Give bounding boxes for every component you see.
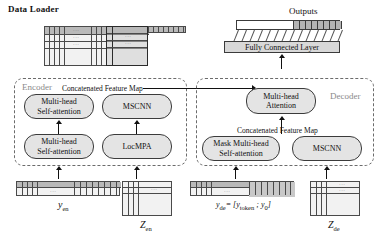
data-loader-dots-1: ··· bbox=[73, 28, 80, 33]
arrow-zen-to-encoder bbox=[136, 170, 137, 179]
input-z-de-block: ··· ··· bbox=[310, 181, 360, 216]
module-dec-bottom-left-line1: Mask Multi-head bbox=[213, 139, 268, 149]
input-z-de-subscript: de bbox=[334, 225, 340, 232]
selection-header bbox=[107, 27, 147, 34]
module-dec-bottom-left-line2: Self-attention bbox=[213, 149, 268, 159]
arrow-dec-to-fc-head bbox=[279, 54, 285, 58]
input-y-de-eq-mid: ; y bbox=[254, 200, 264, 209]
input-z-en-subscript: en bbox=[146, 225, 152, 232]
arrow-enc-right-internal bbox=[136, 124, 137, 134]
data-loader-selection: ··· ··· bbox=[106, 26, 148, 66]
input-y-de-eq-sub1: token bbox=[240, 204, 254, 211]
fully-connected-layer: Fully Connected Layer bbox=[224, 41, 340, 53]
arrow-enc-right-internal-head bbox=[134, 120, 140, 124]
module-dec-bottom-right-line1: MSCNN bbox=[313, 144, 341, 154]
input-y-en-bar: ··· bbox=[16, 181, 120, 196]
encoder-concat-feature-map-label: Concatenated Feature Map bbox=[62, 84, 143, 93]
input-z-en-block: ··· bbox=[122, 181, 172, 216]
module-dec-bottom-right[interactable]: MSCNN bbox=[292, 136, 362, 161]
outputs-label: Outputs bbox=[289, 6, 318, 16]
y-en-dots: ··· bbox=[50, 189, 57, 194]
module-enc-bottom-left[interactable]: Multi-head Self-attention bbox=[24, 134, 94, 159]
selection-dots-1: ··· bbox=[125, 34, 132, 39]
module-enc-top-right-line1: MSCNN bbox=[123, 102, 151, 112]
z-en-dots-1: ··· bbox=[151, 187, 158, 192]
module-enc-top-left-line1: Multi-head bbox=[37, 97, 81, 107]
encoder-label: Encoder bbox=[22, 82, 52, 92]
arrow-yen-to-encoder bbox=[58, 170, 59, 179]
arrow-dec-to-fc bbox=[281, 58, 282, 69]
module-enc-top-left-line2: Self-attention bbox=[37, 107, 81, 117]
data-loader-table: ··· ··· ··· ··· ··· bbox=[44, 26, 186, 66]
arrow-dec-concat-to-attention-head bbox=[279, 116, 285, 120]
input-y-en-subscript: en bbox=[62, 205, 68, 212]
input-z-de-label: Zde bbox=[328, 219, 340, 232]
arrow-zde-to-decoder bbox=[326, 170, 327, 179]
module-enc-bottom-left-line2: Self-attention bbox=[37, 147, 81, 157]
module-dec-top[interactable]: Multi-head Attention bbox=[246, 88, 316, 114]
arrow-zen-to-encoder-head bbox=[134, 166, 140, 170]
input-y-de-label: yde= [ytoken ; y0] bbox=[216, 200, 271, 211]
data-loader-dots-3: ··· bbox=[73, 42, 80, 47]
arrow-enc-left-internal bbox=[58, 124, 59, 134]
arrow-yde-to-decoder-head bbox=[233, 166, 239, 170]
module-dec-top-line1: Multi-head bbox=[263, 92, 299, 102]
input-z-en-label: Zen bbox=[140, 219, 152, 232]
module-dec-bottom-left[interactable]: Mask Multi-head Self-attention bbox=[202, 136, 280, 161]
z-de-dots-1: ··· bbox=[339, 182, 346, 187]
module-enc-top-left[interactable]: Multi-head Self-attention bbox=[24, 94, 94, 119]
input-y-de-bar: ··· bbox=[190, 181, 294, 196]
selection-dots-2: ··· bbox=[125, 41, 132, 46]
data-loader-dots-2: ··· bbox=[73, 35, 80, 40]
module-enc-bottom-left-line1: Multi-head bbox=[37, 137, 81, 147]
arrow-zde-to-decoder-head bbox=[324, 166, 330, 170]
arrow-enc-left-internal-head bbox=[56, 120, 62, 124]
data-loader-token-strip bbox=[148, 26, 186, 33]
arrow-yen-to-encoder-head bbox=[56, 166, 62, 170]
input-y-de-eq: = [y bbox=[226, 200, 240, 209]
input-y-en-label: yen bbox=[58, 199, 69, 212]
fully-connected-layer-label: Fully Connected Layer bbox=[245, 43, 319, 52]
module-enc-top-right[interactable]: MSCNN bbox=[102, 94, 172, 119]
decoder-concat-feature-map-label: Concatenated Feature Map bbox=[237, 126, 318, 135]
module-dec-top-line2: Attention bbox=[263, 101, 299, 111]
arrow-yde-to-decoder bbox=[235, 170, 236, 179]
data-loader-title: Data Loader bbox=[8, 4, 59, 14]
module-enc-bottom-right-line1: LocMPA bbox=[122, 142, 151, 152]
outputs-bar bbox=[236, 20, 340, 30]
y-de-dots: ··· bbox=[224, 189, 231, 194]
arrow-dec-concat-to-attention bbox=[281, 120, 282, 134]
z-de-dots-2: ··· bbox=[339, 188, 346, 193]
input-y-de-eq-end: ] bbox=[268, 200, 271, 209]
decoder-label: Decoder bbox=[330, 91, 360, 101]
module-enc-bottom-right[interactable]: LocMPA bbox=[102, 134, 172, 159]
